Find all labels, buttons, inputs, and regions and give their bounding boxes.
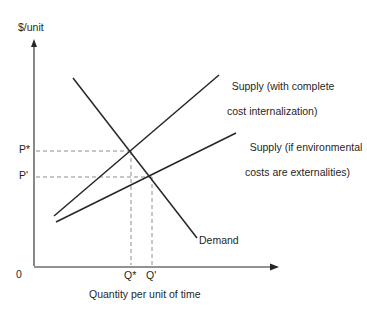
y-tick-label-p-prime: P'	[19, 169, 28, 181]
supply-demand-figure: $/unit P* P' 0 Q* Q' Quantity per unit o…	[0, 0, 367, 310]
x-tick-label-q-star: Q*	[124, 269, 136, 281]
supply-externalities-label-line1: Supply (if environmental	[250, 141, 363, 153]
supply-externalities-label-line2: costs are externalities)	[238, 166, 362, 178]
x-axis-title: Quantity per unit of time	[89, 288, 200, 300]
supply-internalized-curve	[54, 75, 219, 216]
supply-internalized-label-line1: Supply (with complete	[232, 80, 335, 92]
x-axis-arrowhead	[270, 264, 279, 271]
demand-curve	[73, 78, 197, 238]
y-axis-arrowhead	[31, 39, 37, 47]
y-axis-title: $/unit	[18, 21, 44, 33]
supply-externalities-curve	[56, 133, 236, 222]
supply-externalities-label: Supply (if environmental costs are exter…	[238, 129, 362, 203]
origin-label: 0	[16, 268, 22, 280]
demand-label: Demand	[199, 234, 239, 246]
y-tick-label-p-star: P*	[19, 143, 30, 155]
x-tick-label-q-prime: Q'	[146, 269, 156, 281]
supply-internalized-label-line2: cost internalization)	[220, 105, 334, 117]
